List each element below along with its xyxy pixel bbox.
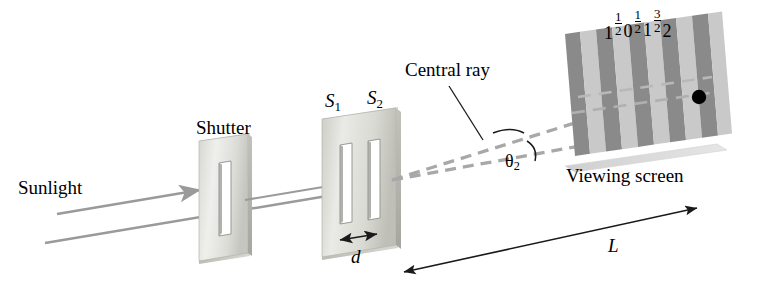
fraction-numerator: 1	[635, 8, 642, 21]
fraction-denominator: 2	[654, 20, 661, 34]
fraction-denominator: 2	[635, 21, 642, 35]
slit-S1-letter: S	[325, 90, 335, 111]
distance-L-label: L	[608, 236, 619, 255]
fringe-order-m-plus-one: 1	[643, 20, 652, 41]
theta2-arc-lower	[527, 141, 536, 161]
fringe-order-m-plus-half: 12	[635, 11, 642, 39]
theta-subscript: 2	[514, 159, 520, 173]
slit-S1-label: S1	[325, 91, 341, 114]
fringe-order-m-plus-two: 2	[663, 21, 672, 42]
central-ray-leader-line	[449, 86, 483, 140]
sunlight-beam	[45, 190, 345, 243]
shutter-slit-inner-shadow	[219, 163, 222, 236]
fraction-numerator: 3	[654, 7, 661, 20]
dashed-rays	[392, 122, 580, 180]
slit-S1-inner-shadow	[340, 145, 343, 224]
slit-S2-label: S2	[367, 88, 383, 111]
slit-separation-label: d	[351, 247, 361, 266]
fringe-order-m-plus-threehalf: 32	[654, 10, 661, 38]
double-slit-experiment-figure: Sunlight Shutter S1 S2 d Central ray θ2 …	[0, 0, 763, 288]
sunlight-label: Sunlight	[18, 178, 82, 197]
second-order-ray-dashed	[392, 122, 578, 180]
central-ray-label: Central ray	[405, 60, 490, 79]
shutter-plate	[199, 133, 252, 264]
fraction: 12	[615, 10, 622, 38]
bright-spot-dot	[692, 90, 706, 104]
L-double-arrow	[404, 208, 697, 272]
fraction: 32	[654, 7, 661, 35]
slit-S2-inner-shadow	[368, 141, 371, 220]
slit-S2-letter: S	[367, 87, 377, 108]
sunlight-ray-lower	[45, 193, 345, 243]
double-slit-plate-face	[322, 108, 396, 257]
theta2-arc-upper	[493, 130, 524, 134]
shutter-plate-side	[248, 134, 252, 256]
fringe-order-labels: 1120121322	[603, 16, 673, 44]
length-arrow-L	[404, 208, 697, 272]
slit-S1-subscript: 1	[335, 99, 341, 114]
fraction: 12	[635, 8, 642, 36]
viewing-screen-label: Viewing screen	[566, 166, 684, 185]
shutter-label: Shutter	[196, 118, 251, 137]
slit-S2-subscript: 2	[377, 96, 383, 111]
fringe-order-m-zero: 0	[624, 21, 633, 42]
theta-symbol: θ	[505, 151, 514, 171]
fraction-numerator: 1	[615, 10, 622, 23]
fringe-order-m-minus-half: 12	[615, 13, 622, 41]
fraction-denominator: 2	[615, 23, 622, 37]
fringe-order-m-minus-1: 1	[604, 23, 613, 44]
theta2-label: θ2	[505, 152, 520, 173]
